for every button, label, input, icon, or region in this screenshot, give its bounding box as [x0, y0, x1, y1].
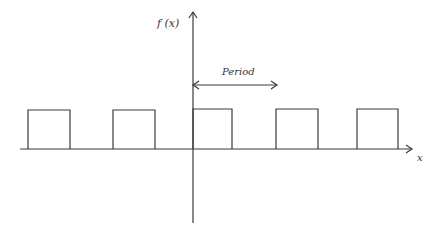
pulse-4 [276, 109, 318, 149]
x-axis-label: x [417, 152, 423, 163]
pulse-1 [28, 110, 70, 149]
pulse-5 [357, 109, 398, 149]
pulse-3 [193, 109, 232, 149]
period-label: Period [221, 66, 255, 77]
square-wave-diagram: f (x) x Period [0, 0, 441, 234]
y-axis-label: f (x) [156, 17, 179, 30]
pulse-2 [113, 110, 155, 149]
